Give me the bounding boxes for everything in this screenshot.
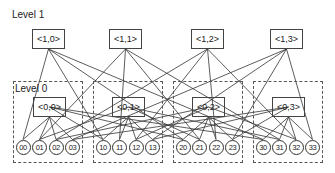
leaf-node[interactable]: 21 (192, 140, 207, 155)
level-0-node[interactable]: <0,2> (192, 97, 225, 117)
leaf-node[interactable]: 12 (129, 140, 144, 155)
leaf-node[interactable]: 10 (96, 140, 111, 155)
leaf-node[interactable]: 33 (305, 140, 320, 155)
leaf-node[interactable]: 02 (49, 140, 64, 155)
leaf-node[interactable]: 30 (256, 140, 271, 155)
level-0-node[interactable]: <0,0> (33, 97, 66, 117)
leaf-node[interactable]: 20 (176, 140, 191, 155)
level-1-node[interactable]: <1,0> (32, 29, 65, 49)
level-0-node[interactable]: <0,3> (272, 97, 305, 117)
leaf-node[interactable]: 22 (209, 140, 224, 155)
level-1-node[interactable]: <1,2> (191, 29, 224, 49)
leaf-node[interactable]: 11 (112, 140, 127, 155)
level-0-label: Level 0 (15, 83, 47, 94)
leaf-node[interactable]: 32 (289, 140, 304, 155)
leaf-node[interactable]: 23 (225, 140, 240, 155)
level-1-label: Level 1 (12, 9, 44, 20)
leaf-node[interactable]: 13 (145, 140, 160, 155)
leaf-node[interactable]: 01 (32, 140, 47, 155)
leaf-node[interactable]: 31 (272, 140, 287, 155)
level-1-node[interactable]: <1,3> (270, 29, 303, 49)
leaf-node[interactable]: 03 (65, 140, 80, 155)
leaf-node[interactable]: 00 (16, 140, 31, 155)
level-1-node[interactable]: <1,1> (109, 29, 142, 49)
level-0-node[interactable]: <0,1> (112, 97, 145, 117)
